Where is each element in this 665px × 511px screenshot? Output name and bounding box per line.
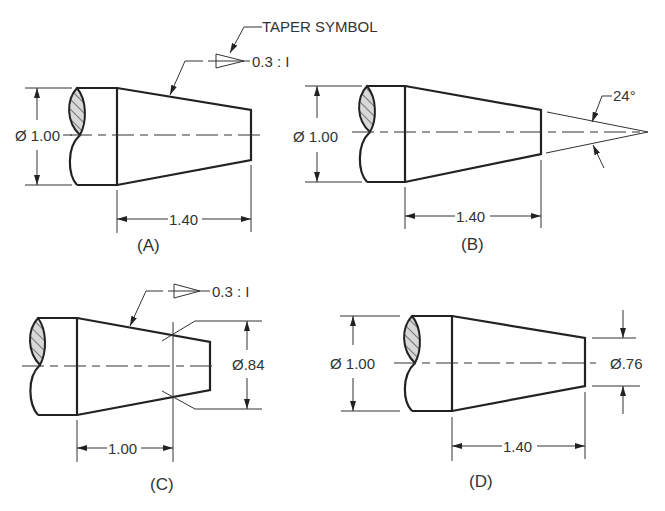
small-diameter-label-d: Ø.76 — [610, 355, 643, 372]
length-dim-d: 1.40 — [452, 392, 585, 461]
diameter-dim-c: Ø.84 — [232, 321, 265, 409]
taper-drawing-sheet: Ø 1.00 1.40 0.3 : I TAPER SYMBOL (A) — [0, 0, 665, 511]
taper-b — [405, 86, 541, 182]
diameter-label-b: Ø 1.00 — [293, 128, 338, 145]
break-hatch-c — [30, 318, 45, 365]
taper-ratio-a: 0.3 : I — [252, 53, 290, 70]
length-dim-a: 1.40 — [117, 165, 251, 233]
shaft-a — [69, 88, 262, 185]
break-hatch-b — [359, 86, 375, 132]
angle-dim-b: 24° — [546, 87, 648, 168]
view-b: Ø 1.00 24° 1.40 (B) — [293, 86, 648, 254]
length-label-b: 1.40 — [456, 208, 485, 225]
length-label-a: 1.40 — [169, 211, 198, 228]
small-diameter-dim-d: Ø.76 — [592, 310, 643, 414]
taper-callout-c: 0.3 : I — [130, 283, 250, 326]
view-label-d: (D) — [469, 472, 493, 491]
diameter-dim-b: Ø 1.00 — [293, 86, 362, 182]
view-label-b: (B) — [461, 235, 484, 254]
length-dim-c: 1.00 — [77, 420, 173, 462]
diameter-label-c: Ø.84 — [232, 356, 265, 373]
break-hatch-a — [69, 88, 85, 135]
taper-callout-a: 0.3 : I TAPER SYMBOL — [170, 18, 378, 95]
diameter-label-d: Ø 1.00 — [330, 355, 375, 372]
diameter-label-a: Ø 1.00 — [15, 127, 60, 144]
break-hatch-d — [404, 316, 420, 363]
view-label-a: (A) — [137, 236, 160, 255]
shaft-d — [394, 316, 596, 411]
view-label-c: (C) — [150, 475, 174, 494]
length-dim-b: 1.40 — [405, 160, 541, 229]
shaft-c — [22, 318, 218, 415]
taper-a — [117, 88, 251, 185]
length-label-d: 1.40 — [503, 438, 532, 455]
view-d: Ø 1.00 Ø.76 1.40 (D) — [330, 310, 643, 491]
diameter-dim-d: Ø 1.00 — [330, 316, 400, 411]
taper-symbol-callout: TAPER SYMBOL — [262, 18, 378, 35]
shaft-b — [352, 86, 646, 182]
length-label-c: 1.00 — [108, 440, 137, 457]
view-c: Ø.84 1.00 0.3 : I (C) — [22, 283, 265, 494]
taper-ratio-c: 0.3 : I — [212, 283, 250, 300]
diameter-dim-a: Ø 1.00 — [15, 88, 72, 185]
angle-label-b: 24° — [613, 87, 636, 104]
